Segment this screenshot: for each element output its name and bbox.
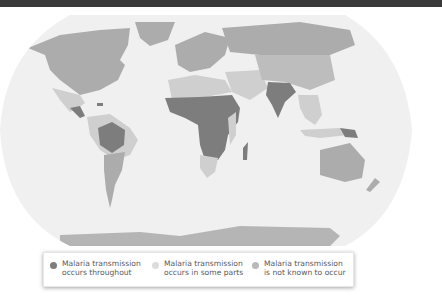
legend-item-not-known: Malaria transmission is not known to occ…: [252, 259, 346, 277]
legend-item-some-parts: Malaria transmission occurs in some part…: [152, 259, 243, 277]
legend-label: occurs in some parts: [164, 268, 243, 277]
dot-icon: [50, 262, 57, 269]
region-haiti: [97, 103, 103, 106]
legend-label: Malaria transmission: [264, 259, 346, 268]
legend-label: Malaria transmission: [62, 259, 141, 268]
legend: Malaria transmission occurs throughout M…: [43, 252, 354, 287]
legend-label: Malaria transmission: [164, 259, 243, 268]
legend-item-throughout: Malaria transmission occurs throughout: [50, 259, 141, 277]
dot-icon: [252, 262, 259, 269]
legend-label: occurs throughout: [62, 268, 141, 277]
world-malaria-map: [0, 0, 442, 250]
legend-label: is not known to occur: [264, 268, 346, 277]
dot-icon: [152, 262, 159, 269]
